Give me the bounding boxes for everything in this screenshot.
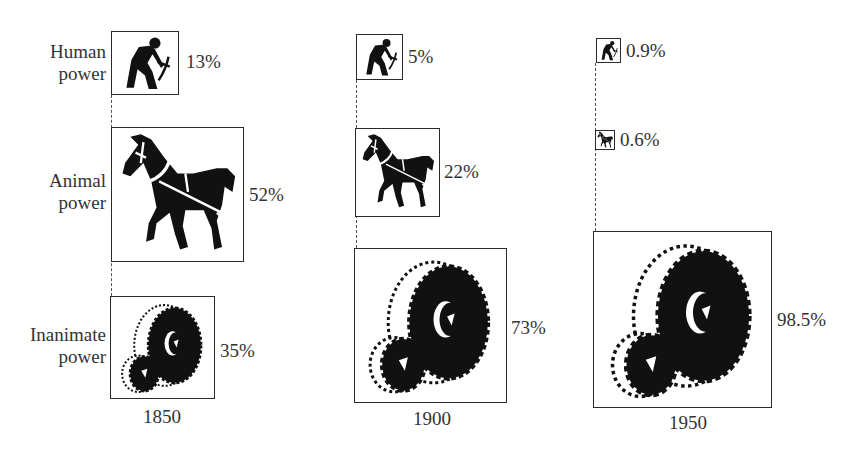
row-label-inanimate-line1: Inanimate — [6, 324, 106, 346]
row-label-human: Human power — [6, 41, 106, 85]
pct-1950-animal: 0.6% — [620, 129, 660, 151]
pct-1850-inanimate: 35% — [220, 340, 255, 362]
gears-icon — [594, 232, 771, 407]
year-label-1950: 1950 — [648, 412, 728, 434]
worker-with-pickaxe-icon — [357, 35, 402, 79]
row-label-animal-line2: power — [6, 192, 106, 214]
box-1850-inanimate — [110, 296, 215, 399]
pct-1900-inanimate: 73% — [511, 317, 546, 339]
year-label-1850: 1850 — [122, 406, 202, 428]
box-1900-inanimate — [354, 248, 507, 403]
draft-horse-icon — [112, 128, 243, 261]
pct-1850-animal: 52% — [249, 184, 284, 206]
gears-icon — [355, 249, 506, 402]
row-label-animal-line1: Animal — [6, 170, 106, 192]
pct-1850-human: 13% — [186, 51, 221, 73]
box-1950-human — [596, 38, 621, 63]
pct-1900-human: 5% — [408, 46, 433, 68]
row-label-inanimate-line2: power — [6, 346, 106, 368]
pct-1950-inanimate: 98.5% — [777, 309, 826, 331]
draft-horse-icon — [596, 131, 614, 149]
box-1950-animal — [595, 130, 615, 150]
box-1900-human — [356, 34, 403, 80]
gears-icon — [111, 297, 214, 398]
box-1900-animal — [355, 128, 440, 217]
worker-with-pickaxe-icon — [112, 32, 178, 94]
year-label-1900: 1900 — [392, 408, 472, 430]
box-1850-animal — [111, 127, 244, 262]
row-label-inanimate: Inanimate power — [6, 324, 106, 368]
pct-1950-human: 0.9% — [626, 40, 666, 62]
row-label-human-line2: power — [6, 63, 106, 85]
row-label-human-line1: Human — [6, 41, 106, 63]
row-label-animal: Animal power — [6, 170, 106, 214]
box-1850-human — [111, 31, 179, 95]
draft-horse-icon — [356, 129, 439, 216]
worker-with-pickaxe-icon — [597, 39, 620, 62]
box-1950-inanimate — [593, 231, 772, 408]
pct-1900-animal: 22% — [444, 161, 479, 183]
